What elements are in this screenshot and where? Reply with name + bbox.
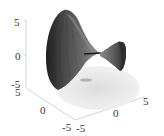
saddle-surface-plot bbox=[0, 0, 164, 136]
x-tick-label: 0 bbox=[113, 108, 119, 119]
x-tick-label: -5 bbox=[76, 123, 85, 134]
y-tick-label: 0 bbox=[40, 105, 46, 116]
z-tick-label: 5 bbox=[14, 17, 20, 28]
x-tick-label: 5 bbox=[143, 96, 149, 107]
y-tick-label: -5 bbox=[62, 122, 71, 133]
z-tick-label: 0 bbox=[15, 51, 21, 62]
y-tick-label: 5 bbox=[15, 87, 21, 98]
